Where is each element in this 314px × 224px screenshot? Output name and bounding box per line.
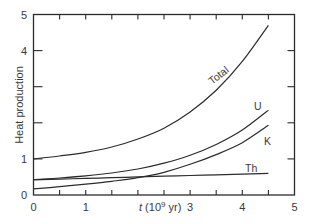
- x-tick-label: 3: [187, 201, 193, 213]
- label-k: K: [264, 135, 271, 147]
- heat-production-chart: 01345 0145 t (109 yr) Heat production To…: [0, 0, 314, 224]
- label-u: U: [254, 100, 262, 112]
- y-tick-label: 5: [21, 9, 27, 21]
- curve-total: [34, 25, 269, 159]
- x-axis-label: t (109 yr): [139, 200, 181, 213]
- y-tick-label: 1: [21, 153, 27, 165]
- label-th: Th: [245, 162, 257, 174]
- curve-th: [34, 173, 269, 180]
- label-total: Total: [206, 63, 231, 86]
- x-tick-label: 5: [291, 201, 297, 213]
- y-tick-label: 4: [21, 45, 27, 57]
- x-tick-label: 1: [83, 201, 89, 213]
- curve-u: [34, 110, 269, 179]
- x-tick-label: 4: [239, 201, 245, 213]
- y-tick-label: 0: [21, 189, 27, 201]
- curves: [34, 25, 269, 189]
- x-tick-label: 0: [30, 201, 36, 213]
- y-axis-label: Heat production: [13, 66, 25, 144]
